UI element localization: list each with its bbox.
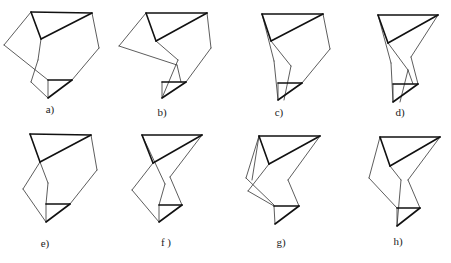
link-bar-thin xyxy=(246,136,259,178)
link-bar-thick xyxy=(142,135,153,163)
link-bar-thin xyxy=(411,15,438,57)
link-bar-thin xyxy=(302,49,330,83)
link-bar-thick xyxy=(378,15,388,43)
panel-d xyxy=(378,15,438,102)
link-bar-thin xyxy=(170,135,202,177)
panel-label-f: f ) xyxy=(161,236,171,248)
panel-label-c: c) xyxy=(275,106,284,118)
link-bar-thick xyxy=(262,14,271,41)
link-bar-thin xyxy=(411,57,418,84)
link-bar-thin xyxy=(248,164,269,191)
link-bar-thick xyxy=(146,13,156,41)
panel-label-h: h) xyxy=(393,235,402,247)
link-bar-thin xyxy=(400,70,408,102)
link-bar-thick xyxy=(275,206,299,224)
link-bar-thin xyxy=(4,12,31,45)
link-bar-thin xyxy=(369,178,397,208)
link-bar-thin xyxy=(369,137,380,178)
link-bar-thin xyxy=(288,180,299,206)
link-bar-thick xyxy=(259,136,269,164)
link-bar-thin xyxy=(207,13,211,48)
link-bar-thick xyxy=(390,137,440,166)
panel-label-a: a) xyxy=(46,103,55,115)
link-bar-thin xyxy=(246,178,274,205)
link-bar-thick xyxy=(30,134,40,162)
link-bar-thick xyxy=(159,205,182,222)
link-bar-thick xyxy=(278,83,302,100)
link-bar-thin xyxy=(72,48,99,80)
link-bar-thick xyxy=(31,12,41,39)
link-bar-thin xyxy=(132,163,153,190)
link-bar-thick xyxy=(46,204,70,222)
link-bar-thin xyxy=(92,13,99,48)
link-bar-thick xyxy=(30,134,91,135)
link-bar-thin xyxy=(274,61,278,100)
link-bar-thick xyxy=(397,208,420,226)
link-bar-thin xyxy=(46,183,48,204)
link-bar-thin xyxy=(70,170,97,204)
panel-label-d: d) xyxy=(395,106,404,118)
panel-label-b: b) xyxy=(157,106,166,118)
panel-label-e: e) xyxy=(41,237,50,249)
link-bar-thin xyxy=(323,14,330,49)
link-bar-thick xyxy=(271,14,323,41)
link-bar-thin xyxy=(40,162,48,183)
link-bar-thick xyxy=(40,135,91,162)
panel-b xyxy=(119,13,211,98)
link-bar-thick xyxy=(380,137,390,166)
link-bar-thick xyxy=(48,80,72,98)
link-bar-thin xyxy=(119,13,146,46)
link-bar-thin xyxy=(4,45,48,80)
link-bar-thin xyxy=(132,190,159,222)
link-bar-thin xyxy=(23,189,46,222)
link-bar-thin xyxy=(408,70,413,84)
link-bar-thin xyxy=(408,137,440,180)
link-bar-thin xyxy=(288,136,320,180)
link-bar-thin xyxy=(170,177,182,205)
link-bar-thin xyxy=(159,184,165,205)
link-bar-thick xyxy=(41,13,92,39)
link-bar-thick xyxy=(388,15,438,43)
link-bar-thin xyxy=(156,41,178,60)
link-bar-thin xyxy=(91,135,97,170)
panel-a xyxy=(4,12,99,98)
link-bar-thin xyxy=(186,48,211,82)
link-bar-thick xyxy=(393,84,418,102)
link-bar-thin xyxy=(397,180,401,226)
panel-f xyxy=(132,135,202,222)
link-bar-thin xyxy=(248,191,274,206)
link-bar-thin xyxy=(274,206,275,224)
link-bar-thin xyxy=(252,136,259,180)
link-bar-thin xyxy=(177,65,181,82)
link-bar-thin xyxy=(38,39,41,60)
panel-e xyxy=(23,134,97,222)
panel-c xyxy=(262,14,330,100)
link-bar-thick xyxy=(269,136,320,164)
panel-label-g: g) xyxy=(276,236,285,248)
link-bar-thin xyxy=(23,162,40,189)
link-bar-thin xyxy=(390,166,401,180)
link-bar-thin xyxy=(119,46,177,65)
link-bar-thick xyxy=(153,135,202,163)
link-bar-thin xyxy=(31,82,48,98)
link-bar-thick xyxy=(31,12,92,13)
link-bar-thin xyxy=(408,180,420,208)
panel-g xyxy=(246,136,320,224)
linkage-diagram-figure xyxy=(0,0,451,263)
link-bar-thick xyxy=(156,13,207,41)
panel-h xyxy=(369,137,440,226)
